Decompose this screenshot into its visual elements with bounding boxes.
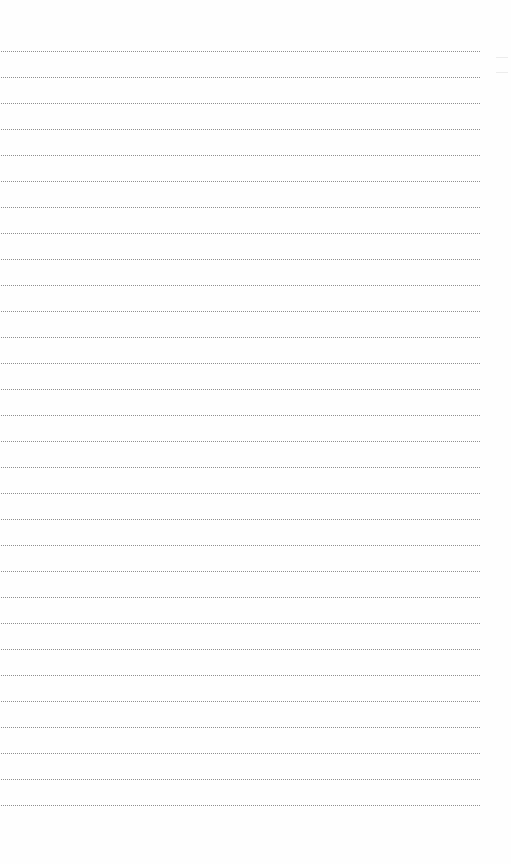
ruled-line xyxy=(1,103,480,104)
ruled-line xyxy=(1,259,480,260)
margin-mark xyxy=(496,57,508,58)
ruled-line xyxy=(1,701,480,702)
ruled-notebook-page xyxy=(0,0,511,864)
ruled-line xyxy=(1,181,480,182)
ruled-line xyxy=(1,389,480,390)
ruled-line xyxy=(1,493,480,494)
ruled-line xyxy=(1,467,480,468)
ruled-line xyxy=(1,519,480,520)
ruled-line xyxy=(1,805,480,806)
margin-mark xyxy=(496,72,508,73)
ruled-line xyxy=(1,129,480,130)
ruled-line xyxy=(1,311,480,312)
ruled-line xyxy=(1,753,480,754)
ruled-line xyxy=(1,675,480,676)
ruled-line xyxy=(1,77,480,78)
ruled-line xyxy=(1,727,480,728)
ruled-line xyxy=(1,155,480,156)
ruled-line xyxy=(1,597,480,598)
ruled-line xyxy=(1,233,480,234)
ruled-line xyxy=(1,207,480,208)
ruled-line xyxy=(1,649,480,650)
ruled-line xyxy=(1,571,480,572)
ruled-line xyxy=(1,337,480,338)
ruled-line xyxy=(1,285,480,286)
ruled-line xyxy=(1,441,480,442)
ruled-line xyxy=(1,51,480,52)
ruled-line xyxy=(1,415,480,416)
ruled-line xyxy=(1,779,480,780)
ruled-line xyxy=(1,363,480,364)
ruled-line xyxy=(1,545,480,546)
ruled-line xyxy=(1,623,480,624)
